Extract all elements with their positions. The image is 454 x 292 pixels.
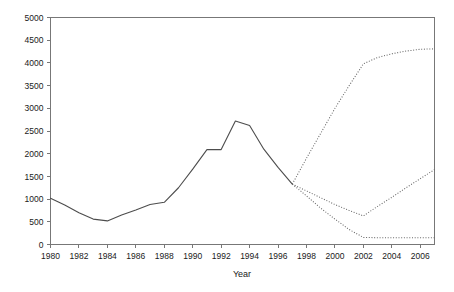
x-tick-label: 2002: [354, 251, 373, 261]
series-lines: [51, 49, 435, 238]
x-tick-label: 1992: [212, 251, 231, 261]
x-tick-label: 1982: [69, 251, 88, 261]
x-tick-label: 1984: [98, 251, 117, 261]
x-tick-label: 2006: [411, 251, 430, 261]
series-historical: [51, 121, 293, 221]
y-axis-tick-labels: 0500100015002000250030003500400045005000: [25, 13, 44, 250]
y-tick-label: 3000: [25, 103, 44, 113]
y-tick-label: 500: [29, 217, 43, 227]
y-tick-label: 1500: [25, 172, 44, 182]
chart-container: 0500100015002000250030003500400045005000…: [0, 0, 454, 292]
series-projection-low: [292, 184, 434, 238]
line-chart: 0500100015002000250030003500400045005000…: [0, 0, 454, 292]
x-axis-title: Year: [233, 269, 251, 279]
series-projection-high: [292, 49, 434, 184]
y-tick-label: 2500: [25, 126, 44, 136]
x-tick-label: 1998: [297, 251, 316, 261]
x-tick-label: 1990: [183, 251, 202, 261]
x-tick-label: 1980: [41, 251, 60, 261]
y-tick-label: 2000: [25, 149, 44, 159]
x-tick-label: 2000: [325, 251, 344, 261]
y-tick-label: 3500: [25, 81, 44, 91]
y-tick-label: 0: [39, 240, 44, 250]
y-tick-label: 4000: [25, 58, 44, 68]
x-tick-label: 1996: [269, 251, 288, 261]
x-tick-label: 1986: [126, 251, 145, 261]
plot-frame: [51, 18, 435, 245]
y-tick-label: 5000: [25, 13, 44, 23]
axis-frame: [51, 18, 435, 245]
y-tick-label: 1000: [25, 194, 44, 204]
x-tick-label: 2004: [382, 251, 401, 261]
x-axis-tick-labels: 1980198219841986198819901992199419961998…: [41, 251, 430, 261]
y-tick-label: 4500: [25, 35, 44, 45]
x-tick-label: 1988: [155, 251, 174, 261]
series-projection-mid: [292, 170, 434, 216]
x-tick-label: 1994: [240, 251, 259, 261]
